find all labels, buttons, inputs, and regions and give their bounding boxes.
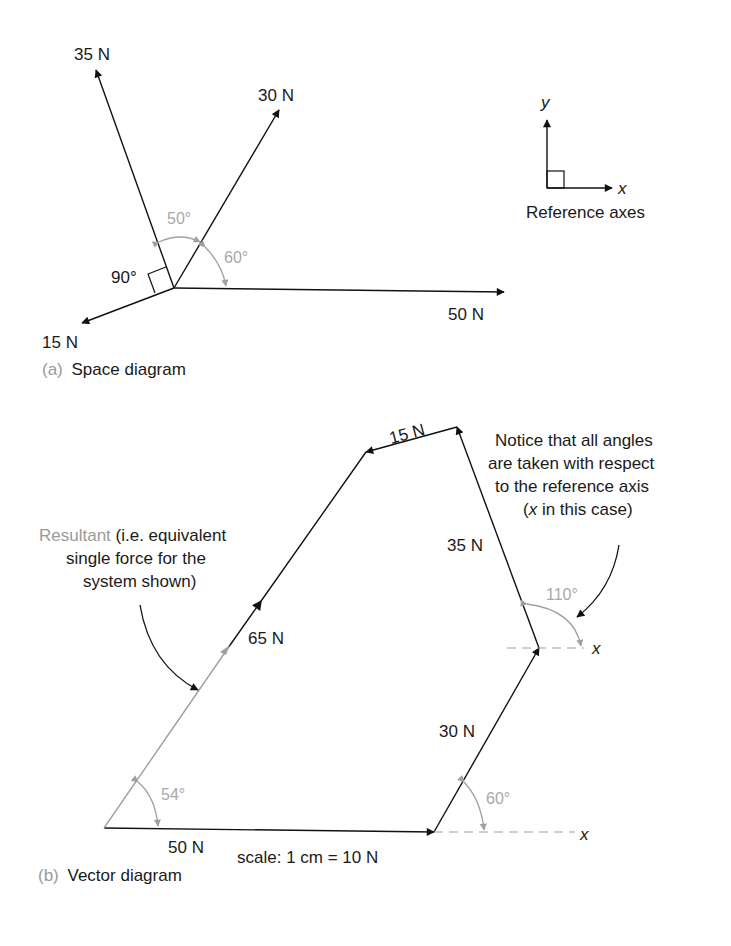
resultant-note-line2: single force for the	[66, 549, 206, 568]
space-diagram: 35 N 30 N 50 N 15 N 50° 60° 90° (a) Spac…	[42, 45, 504, 379]
angle-label-50: 50°	[167, 210, 191, 227]
reference-axes: y x Reference axes	[526, 93, 645, 222]
axis-note-line2: are taken with respect	[488, 454, 655, 473]
caption-a-text: Space diagram	[72, 360, 186, 379]
caption-a-letter: (a)	[42, 360, 63, 379]
resultant-note-rest: (i.e. equivalent	[111, 526, 227, 545]
angle-arc-110	[527, 604, 581, 646]
vector-50n	[104, 828, 434, 832]
x-axis-label-2: x	[579, 825, 589, 844]
force-50n-arrow	[174, 288, 504, 292]
vector-label-30n: 30 N	[439, 722, 475, 741]
vector-label-35n: 35 N	[447, 536, 483, 555]
angle-arc-60-b	[464, 782, 484, 830]
angle-label-90: 90°	[111, 268, 137, 287]
resultant-arrow-icon	[220, 645, 230, 655]
x-axis-label-1: x	[591, 639, 601, 658]
vector-65n	[228, 452, 366, 648]
axis-note-line1: Notice that all angles	[495, 431, 653, 450]
resultant-callout-arrow	[140, 605, 198, 690]
ref-right-angle-marker	[547, 171, 564, 188]
vector-label-50n: 50 N	[168, 838, 204, 857]
force-35n-arrow	[96, 70, 174, 288]
label-15n: 15 N	[42, 333, 78, 352]
caption-b-text: Vector diagram	[68, 866, 182, 885]
ref-x-label: x	[617, 179, 627, 198]
axis-note-line4: (x in this case)	[523, 500, 633, 519]
label-30n: 30 N	[258, 86, 294, 105]
angle-label-60-b: 60°	[486, 790, 510, 807]
ref-y-label: y	[540, 93, 551, 112]
axis-note-rest: in this case)	[537, 500, 632, 519]
label-35n: 35 N	[74, 45, 110, 64]
axis-note-line3: to the reference axis	[495, 477, 649, 496]
resultant-note-line3: system shown)	[83, 572, 196, 591]
caption-b: (b) Vector diagram	[38, 866, 182, 885]
vector-diagram: x x 15 N 35 N 65 N 30 N 50 N 54° 60° 110…	[0, 0, 655, 885]
vector-label-15n: 15 N	[387, 420, 427, 448]
caption-b-letter: (b)	[38, 866, 59, 885]
resultant-note-keyword: Resultant	[39, 526, 111, 545]
angle-arc-60	[205, 247, 226, 286]
angle-label-54: 54°	[161, 786, 185, 803]
right-angle-marker	[148, 267, 166, 293]
axis-note-callout-arrow	[577, 545, 619, 617]
vector-label-65n: 65 N	[248, 629, 284, 648]
angle-arc-54	[138, 782, 158, 826]
force-diagrams: 35 N 30 N 50 N 15 N 50° 60° 90° (a) Spac…	[0, 0, 731, 946]
angle-label-60: 60°	[224, 249, 248, 266]
force-15n-arrow	[82, 288, 174, 323]
angle-label-110: 110°	[546, 586, 578, 603]
resultant-note-line1: Resultant (i.e. equivalent	[39, 526, 226, 545]
caption-a: (a) Space diagram	[42, 360, 186, 379]
scale-label: scale: 1 cm = 10 N	[237, 848, 378, 867]
ref-axes-caption: Reference axes	[526, 203, 645, 222]
angle-arc-50	[159, 237, 200, 242]
label-50n: 50 N	[448, 305, 484, 324]
axis-note-x: x	[528, 500, 538, 519]
